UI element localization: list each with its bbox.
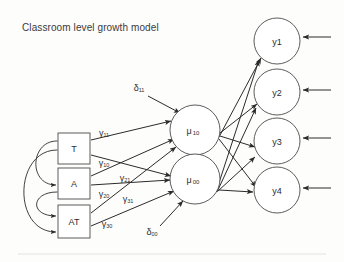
- path-label-gamma-20: γ20: [99, 189, 110, 199]
- path-diagram: T A AT γ11 γ10: [0, 0, 344, 262]
- disturbance-arrow-delta-11: [148, 96, 180, 113]
- latent-circles: μ10 μ00: [170, 105, 220, 204]
- loading-mu00-to-y4: [219, 190, 253, 192]
- disturbance-label-delta-00: δ00: [146, 227, 157, 237]
- predictor-label-t: T: [71, 144, 77, 154]
- disturbance-label-delta-11: δ11: [134, 83, 145, 93]
- path-label-gamma-30: γ30: [102, 219, 113, 229]
- disturbance-labels: δ11 δ00: [134, 83, 158, 237]
- predictor-label-at: AT: [69, 217, 80, 227]
- outcome-label-y4: y4: [272, 186, 282, 196]
- outcome-label-y1: y1: [272, 37, 282, 47]
- covariance-arrows: [24, 141, 57, 232]
- path-a-to-mu10: [91, 139, 174, 176]
- loading-mu10-to-y4: [219, 139, 256, 187]
- covariance-arrow-t-at: [24, 150, 57, 232]
- outcome-circles: y1 y2 y3 y4: [254, 18, 300, 213]
- loading-paths: [216, 58, 261, 192]
- path-label-gamma-31: γ31: [123, 194, 134, 204]
- covariance-arrow-a-at: [37, 192, 57, 216]
- disturbance-arrow-delta-00: [160, 201, 183, 226]
- path-label-gamma-11: γ11: [99, 128, 109, 138]
- diagram-canvas: Classroom level growth model T A: [0, 0, 344, 262]
- loading-mu10-to-y3: [220, 136, 255, 147]
- covariance-arrow-t-a: [36, 141, 57, 185]
- outcome-label-y3: y3: [272, 137, 282, 147]
- outcome-label-y2: y2: [272, 88, 282, 98]
- residual-arrows: [303, 37, 331, 188]
- path-labels: γ11 γ10 γ21 γ20 γ31 γ30: [99, 128, 134, 229]
- path-label-gamma-21: γ21: [120, 173, 131, 183]
- predictor-label-a: A: [71, 179, 77, 189]
- predictor-boxes: T A AT: [58, 133, 90, 238]
- loading-mu00-to-y1: [216, 60, 259, 192]
